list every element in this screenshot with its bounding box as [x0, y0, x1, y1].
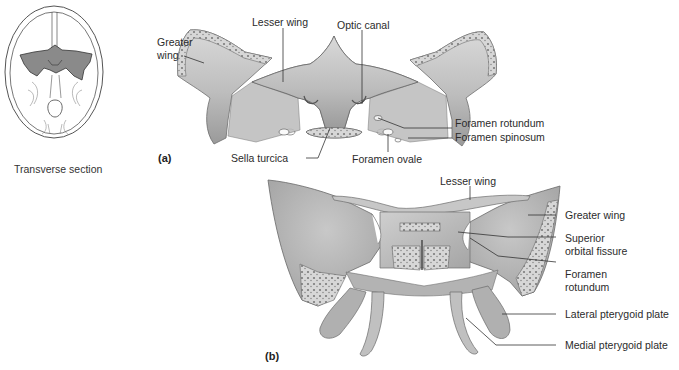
sphenoid-highlight — [20, 45, 92, 80]
panel-a-tag: (a) — [158, 152, 171, 164]
label-a-optic-canal: Optic canal — [337, 19, 390, 31]
label-a-foramen-rotundum: Foramen rotundum — [455, 117, 544, 129]
panel-b-tag: (b) — [265, 350, 279, 362]
inset-skull — [5, 6, 103, 138]
label-a-lesser-wing: Lesser wing — [252, 16, 308, 28]
label-a-foramen-ovale: Foramen ovale — [352, 153, 422, 165]
sphenoid-superior-view — [178, 30, 497, 146]
label-a-sella-turcica: Sella turcica — [231, 152, 288, 164]
label-b-superior-orbital-fissure-line1: Superior — [565, 232, 605, 244]
label-b-foramen-rotundum-line1: Foramen — [565, 268, 607, 280]
label-b-lateral-pterygoid-plate: Lateral pterygoid plate — [565, 308, 669, 320]
label-a-foramen-spinosum: Foramen spinosum — [455, 131, 545, 143]
label-a-greater-wing-line1: Greater — [157, 36, 193, 48]
label-b-lesser-wing: Lesser wing — [440, 175, 496, 187]
label-b-foramen-rotundum-line2: rotundum — [565, 281, 609, 293]
label-a-greater-wing-line2: wing — [157, 49, 179, 61]
label-b-superior-orbital-fissure-line2: orbital fissure — [565, 245, 627, 257]
inset-caption: Transverse section — [14, 163, 102, 175]
sphenoid-posterior-view — [268, 180, 560, 356]
label-b-medial-pterygoid-plate: Medial pterygoid plate — [565, 339, 668, 351]
label-b-greater-wing: Greater wing — [565, 209, 625, 221]
